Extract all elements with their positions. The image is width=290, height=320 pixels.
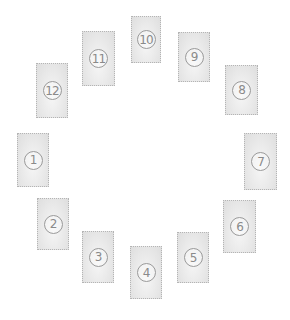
card-5: 5 (177, 232, 209, 283)
card-number: 7 (251, 152, 270, 171)
card-8: 8 (225, 65, 258, 115)
card-number: 12 (43, 81, 62, 100)
card-4: 4 (130, 246, 162, 299)
card-number: 10 (137, 30, 156, 49)
card-number: 9 (185, 48, 204, 67)
card-9: 9 (178, 32, 210, 82)
card-number: 3 (89, 248, 108, 267)
card-number: 2 (44, 215, 63, 234)
card-10: 10 (131, 16, 161, 63)
card-7: 7 (244, 133, 277, 190)
card-12: 12 (36, 63, 68, 118)
card-number: 5 (184, 248, 203, 267)
card-number: 11 (89, 49, 108, 68)
card-6: 6 (223, 200, 256, 253)
card-number: 4 (137, 263, 156, 282)
card-3: 3 (82, 231, 114, 283)
card-2: 2 (37, 198, 69, 250)
card-1: 1 (17, 133, 49, 187)
card-number: 8 (232, 81, 251, 100)
card-11: 11 (82, 31, 115, 86)
card-number: 6 (230, 217, 249, 236)
card-number: 1 (24, 151, 43, 170)
